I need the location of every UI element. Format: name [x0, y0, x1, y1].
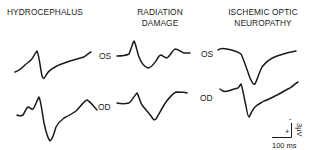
vep-figure: HYDROCEPHALUS RADIATION DAMAGE ISCHEMIC …: [0, 0, 318, 150]
trace-hydrocephalus-od: [17, 97, 97, 141]
eye-label-od: OD: [200, 94, 213, 103]
polarity-negative-label: -: [289, 115, 292, 123]
trace-hydrocephalus-os: [15, 51, 91, 78]
time-scale-label: 100 ms: [272, 142, 297, 150]
eye-label-os: OS: [201, 50, 213, 59]
trace-radiation-od: [117, 92, 187, 120]
trace-ischemic-od: [220, 82, 298, 117]
eye-label-od: OD: [98, 103, 111, 112]
trace-ischemic-os: [218, 48, 296, 84]
eye-label-os: OS: [99, 52, 111, 61]
waveform-traces: [0, 0, 318, 150]
amplitude-scale-label: 3µV: [295, 123, 303, 137]
polarity-positive-label: +: [285, 128, 289, 136]
trace-radiation-os: [117, 41, 190, 68]
